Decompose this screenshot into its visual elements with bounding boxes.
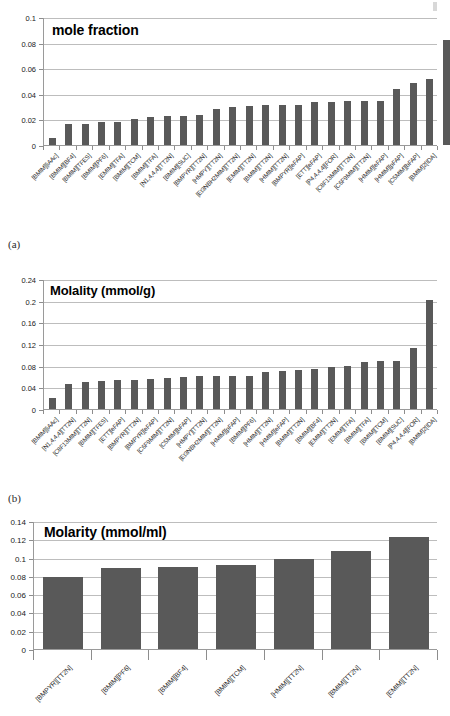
bar — [328, 102, 335, 145]
y-axis-tick-mark — [39, 95, 43, 96]
bar — [216, 565, 256, 649]
bar — [98, 381, 105, 409]
bar — [361, 362, 368, 409]
y-axis-tick-label: 0.04 — [0, 90, 36, 99]
x-axis-tick-mark — [207, 410, 208, 414]
bar — [101, 568, 141, 649]
bar — [377, 361, 384, 409]
bar — [274, 559, 314, 649]
x-axis-tick-mark — [174, 410, 175, 414]
bar — [98, 122, 105, 145]
y-axis-tick-mark — [29, 559, 33, 560]
x-axis-tick-label: [BMIM][TCM] — [213, 664, 246, 697]
bar — [49, 138, 56, 145]
x-axis-tick-mark — [125, 410, 126, 414]
x-axis-tick-mark — [256, 146, 257, 150]
x-axis-tick-mark — [142, 410, 143, 414]
y-axis-tick-label: 0 — [0, 142, 36, 151]
x-axis-tick-mark — [322, 650, 323, 660]
x-axis-tick-label: [EMIM][TT2N] — [385, 664, 419, 698]
chart-molarity: Molarity (mmol/ml) [BMPYR][TT2N][BMIM][P… — [0, 518, 445, 716]
y-axis-tick-mark — [29, 577, 33, 578]
bar — [196, 115, 203, 145]
bar — [426, 300, 433, 409]
y-axis-tick-label: 0.08 — [0, 39, 36, 48]
x-axis-tick-mark — [388, 410, 389, 414]
bar — [158, 567, 198, 649]
y-axis-tick-mark — [39, 345, 43, 346]
x-axis-tick-mark — [355, 146, 356, 150]
chart-c-title: Molarity (mmol/ml) — [44, 524, 167, 540]
x-axis-tick-mark — [224, 410, 225, 414]
y-axis-tick-mark — [39, 323, 43, 324]
x-axis-tick-mark — [240, 146, 241, 150]
plot-area-b — [43, 280, 437, 410]
x-axis-tick-mark — [421, 146, 422, 150]
x-axis-tick-label: [BMIM][TT2N] — [327, 664, 361, 698]
bar — [311, 369, 318, 409]
x-axis-tick-mark — [191, 146, 192, 150]
x-axis-tick-mark — [240, 410, 241, 414]
bar — [114, 380, 121, 409]
bar — [295, 105, 302, 145]
bar — [426, 79, 433, 145]
y-axis-tick-label: 0.06 — [0, 591, 26, 600]
y-axis-tick-mark — [39, 280, 43, 281]
y-axis-tick-mark — [39, 367, 43, 368]
x-axis-tick-label: [BMIM][BF4] — [157, 664, 188, 695]
x-axis-tick-mark — [206, 650, 207, 660]
bar — [180, 116, 187, 145]
bar — [147, 379, 154, 409]
bar — [246, 376, 253, 409]
y-axis-tick-label: 0.04 — [0, 609, 26, 618]
bar — [443, 40, 450, 145]
x-axis-tick-mark — [404, 146, 405, 150]
x-axis-tick-mark — [306, 410, 307, 414]
bar — [65, 384, 72, 409]
y-axis-tick-mark — [39, 302, 43, 303]
x-axis-tick-mark — [158, 146, 159, 150]
x-axis-tick-mark — [191, 410, 192, 414]
plot-area-c — [33, 522, 437, 650]
y-axis-tick-label: 0.06 — [0, 65, 36, 74]
bar — [377, 101, 384, 145]
bar — [331, 551, 371, 649]
x-axis-tick-mark — [388, 146, 389, 150]
x-axis-tick-mark — [207, 146, 208, 150]
x-axis-tick-mark — [109, 146, 110, 150]
x-axis-tick-mark — [43, 146, 44, 150]
y-axis-tick-label: 0 — [0, 406, 36, 415]
chart-mole-fraction: mole fraction [BMIM][iAAc][BMIM][BF4][BM… — [0, 0, 445, 240]
bar — [410, 83, 417, 145]
x-axis-tick-mark — [92, 410, 93, 414]
bar — [246, 106, 253, 145]
bar — [114, 122, 121, 145]
x-axis-tick-mark — [289, 146, 290, 150]
x-axis-tick-mark — [109, 410, 110, 414]
y-axis-tick-label: 0.08 — [0, 362, 36, 371]
chart-a-title: mole fraction — [52, 22, 139, 38]
x-axis-tick-mark — [125, 146, 126, 150]
x-axis-tick-mark — [437, 146, 438, 150]
bar — [410, 348, 417, 409]
y-axis-tick-label: 0 — [0, 646, 26, 655]
bar-series — [44, 280, 437, 409]
bar — [328, 367, 335, 409]
x-axis-tick-mark — [91, 650, 92, 660]
y-axis-tick-label: 0.16 — [0, 319, 36, 328]
y-axis-tick-mark — [29, 595, 33, 596]
x-axis-tick-mark — [371, 146, 372, 150]
panel-letter-a: (a) — [8, 238, 20, 250]
bar — [164, 116, 171, 145]
x-axis-tick-mark — [404, 410, 405, 414]
x-axis-tick-mark — [264, 650, 265, 660]
x-axis-tick-mark — [174, 146, 175, 150]
bar — [49, 398, 56, 409]
bar — [131, 119, 138, 145]
y-axis-tick-mark — [39, 69, 43, 70]
bar — [65, 124, 72, 146]
x-axis-tick-mark — [148, 650, 149, 660]
bar — [196, 376, 203, 409]
y-axis-tick-label: 0.02 — [0, 627, 26, 636]
x-axis-tick-mark — [339, 146, 340, 150]
